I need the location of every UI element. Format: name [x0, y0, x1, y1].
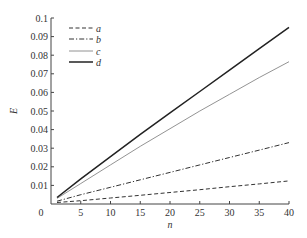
- legend-label-d: d: [96, 57, 102, 68]
- series-a-line: [57, 181, 289, 203]
- legend: abcd: [69, 23, 102, 68]
- y-tick-label: 0.04: [31, 124, 49, 135]
- x-tick-label: 15: [135, 207, 145, 218]
- y-tick-label: 0.01: [31, 180, 49, 191]
- y-axis-label: E: [8, 108, 19, 115]
- y-tick-label: 0.1: [36, 13, 49, 24]
- y-tick-label: 0.06: [31, 87, 49, 98]
- x-tick-label: 30: [225, 207, 235, 218]
- legend-label-a: a: [96, 23, 101, 34]
- y-tick-label: 0.02: [31, 161, 49, 172]
- y-tick-label: 0.09: [31, 31, 49, 42]
- x-tick-label: 40: [284, 207, 294, 218]
- line-chart: 0.010.020.030.040.050.060.070.080.090.10…: [0, 0, 307, 238]
- y-tick-label: 0.05: [31, 106, 49, 117]
- x-tick-label: 0: [39, 207, 44, 218]
- y-tick-label: 0.03: [31, 143, 49, 154]
- series-b-line: [57, 143, 289, 202]
- x-tick-label: 20: [165, 207, 175, 218]
- y-tick-label: 0.08: [31, 50, 49, 61]
- x-tick-label: 35: [254, 207, 264, 218]
- x-axis-label: n: [168, 219, 173, 230]
- legend-label-b: b: [96, 34, 101, 45]
- y-tick-label: 0.07: [31, 68, 49, 79]
- x-tick-label: 25: [195, 207, 205, 218]
- legend-label-c: c: [96, 46, 101, 57]
- series-c-line: [57, 62, 289, 199]
- series-layer: [57, 27, 289, 202]
- x-tick-label: 10: [106, 207, 116, 218]
- x-tick-label: 5: [78, 207, 83, 218]
- chart-canvas: 0.010.020.030.040.050.060.070.080.090.10…: [0, 0, 307, 238]
